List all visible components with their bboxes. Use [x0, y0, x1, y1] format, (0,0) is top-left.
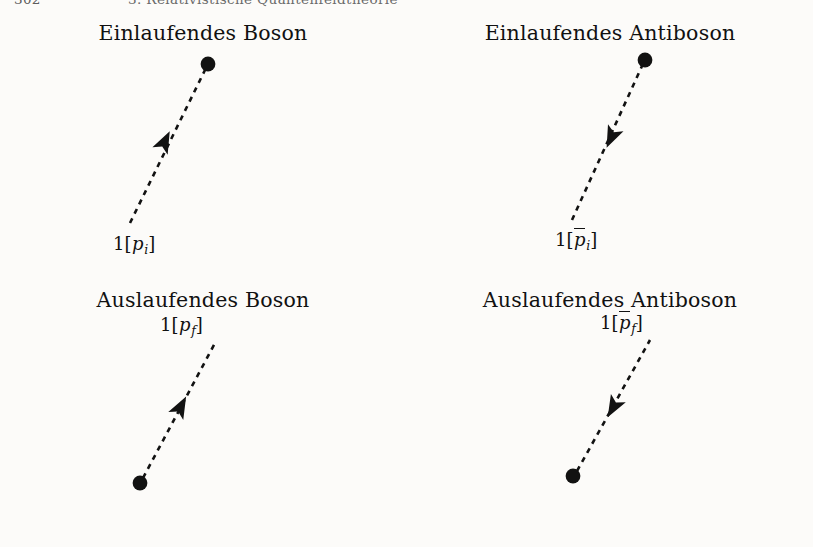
- momentum-prefix: 1[: [113, 233, 131, 254]
- momentum-symbol: p: [131, 234, 143, 254]
- page-number: 302: [14, 0, 41, 7]
- chapter-title: 3. Relativistische Quantenfeldtheorie: [128, 0, 398, 7]
- momentum-symbol-barred: p: [618, 313, 630, 333]
- figure-incoming-antiboson: Einlaufendes Antiboson 1[pi]: [407, 8, 813, 281]
- diagram-incoming-boson: [0, 8, 406, 281]
- figure-outgoing-antiboson: Auslaufendes Antiboson 1[pf]: [407, 275, 813, 547]
- vertex-dot: [133, 476, 148, 491]
- momentum-symbol-barred: p: [573, 230, 585, 250]
- arrowhead-icon: [600, 394, 626, 421]
- arrowhead-icon: [168, 393, 193, 420]
- arrowhead-icon: [152, 128, 177, 155]
- momentum-suffix: ]: [148, 233, 155, 254]
- momentum-symbol: p: [178, 315, 190, 335]
- diagram-outgoing-boson: [0, 275, 406, 547]
- momentum-suffix: ]: [196, 314, 203, 335]
- momentum-label-incoming-antiboson: 1[pi]: [555, 230, 597, 256]
- momentum-prefix: 1[: [600, 312, 618, 333]
- momentum-label-outgoing-antiboson: 1[pf]: [600, 313, 643, 339]
- momentum-prefix: 1[: [160, 314, 178, 335]
- arrowhead-icon: [599, 124, 624, 151]
- figure-incoming-boson: Einlaufendes Boson 1[pi]: [0, 8, 406, 281]
- momentum-suffix: ]: [590, 229, 597, 250]
- vertex-dot: [566, 469, 581, 484]
- vertex-dot: [201, 57, 216, 72]
- momentum-label-incoming-boson: 1[pi]: [113, 234, 155, 260]
- momentum-label-outgoing-boson: 1[pf]: [160, 315, 203, 341]
- momentum-suffix: ]: [636, 312, 643, 333]
- figure-outgoing-boson: Auslaufendes Boson 1[pf]: [0, 275, 406, 547]
- diagram-incoming-antiboson: [407, 8, 813, 281]
- vertex-dot: [638, 53, 653, 68]
- momentum-prefix: 1[: [555, 229, 573, 250]
